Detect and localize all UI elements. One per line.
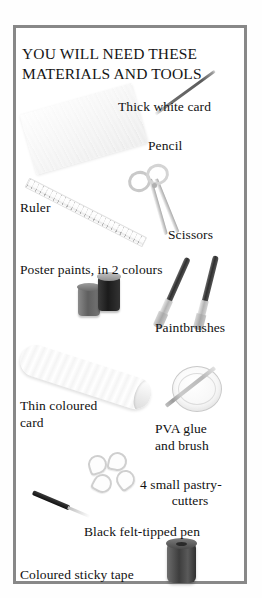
label-poster-paints: Poster paints, in 2 colours — [20, 262, 163, 278]
label-felt-tipped-pen: Black felt-tipped pen — [84, 524, 200, 540]
label-pencil: Pencil — [148, 138, 182, 154]
label-pva-glue-line-2: and brush — [155, 438, 209, 453]
label-pastry-cutters-line-1: 4 small pastry- — [140, 477, 222, 492]
label-ruler: Ruler — [20, 200, 51, 216]
paint-pot-black-illustration — [98, 277, 120, 311]
pastry-cutters-illustration — [86, 452, 148, 500]
pastry-cutter-1 — [86, 453, 110, 477]
page-root: YOU WILL NEED THESE MATERIALS AND TOOLS — [0, 0, 262, 598]
label-thick-white-card: Thick white card — [118, 99, 211, 115]
paint-pot-grey-illustration — [78, 287, 100, 316]
scissors-pivot-screw — [152, 183, 157, 188]
label-paintbrushes: Paintbrushes — [155, 320, 225, 336]
label-sticky-tape: Coloured sticky tape — [20, 567, 134, 583]
label-thin-coloured-card-line-2: card — [20, 415, 44, 430]
label-thin-coloured-card: Thin coloured card — [20, 398, 130, 432]
pva-glue-dish-illustration — [172, 366, 222, 412]
label-scissors: Scissors — [168, 227, 213, 243]
page-title-line-1: YOU WILL NEED THESE — [22, 44, 232, 64]
label-pastry-cutters: 4 small pastry- cutters — [140, 477, 240, 509]
label-pastry-cutters-line-2: cutters — [140, 493, 240, 509]
label-pva-glue-line-1: PVA glue — [155, 421, 207, 436]
sticky-tape-roll-illustration — [167, 543, 196, 583]
label-pva-glue: PVA glue and brush — [155, 421, 235, 455]
label-thin-coloured-card-line-1: Thin coloured — [20, 398, 97, 413]
